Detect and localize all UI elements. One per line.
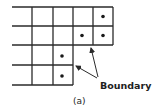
- dot-r3-c3: [60, 54, 64, 58]
- annotation-arrows: [76, 48, 98, 78]
- boundary-dots: [60, 15, 105, 78]
- boundary-label: Boundary: [100, 80, 152, 91]
- dot-r4-c3: [60, 74, 64, 78]
- figure-caption: (a): [73, 96, 86, 106]
- dot-r1-c5: [101, 15, 105, 19]
- arrow-to-upper-step: [91, 48, 98, 77]
- boundary-grid-diagram: Boundary (a): [0, 0, 159, 108]
- grid-lines: [12, 7, 113, 85]
- dot-r2-c5: [101, 34, 105, 38]
- arrow-to-lower-step: [76, 66, 97, 78]
- dot-r2-c4: [80, 34, 84, 38]
